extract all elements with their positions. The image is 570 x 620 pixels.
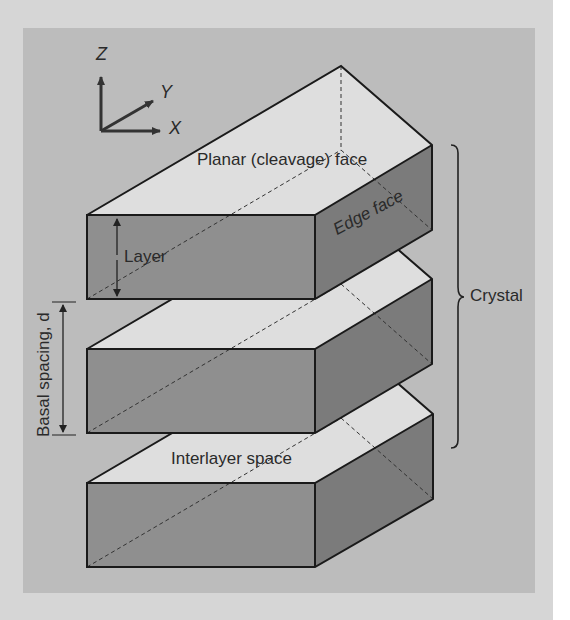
planar-face-label: Planar (cleavage) face: [197, 150, 367, 170]
basal-spacing-arrow: [52, 302, 76, 435]
axes-icon: [101, 77, 160, 131]
crystal-brace: [451, 145, 464, 448]
axis-label-y: Y: [160, 82, 172, 103]
basal-spacing-label: Basal spacing, d: [34, 312, 54, 437]
interlayer-space-label: Interlayer space: [171, 449, 292, 469]
layer-diagram: [0, 0, 570, 620]
axis-label-z: Z: [96, 44, 107, 65]
layer-label: Layer: [124, 247, 167, 267]
axis-label-x: X: [169, 118, 181, 139]
crystal-label: Crystal: [470, 286, 523, 306]
